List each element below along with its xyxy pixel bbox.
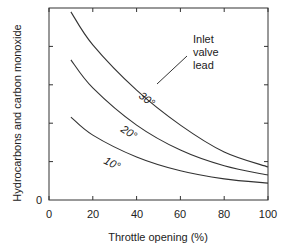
x-tick-100: 100 <box>259 208 277 220</box>
plot-frame <box>49 8 268 200</box>
y-axis-label: Hydrocarbons and carbon monoxide <box>11 24 23 201</box>
annotation-line-1: Inlet <box>193 33 214 45</box>
chart: 0 20 40 60 80 100 0 Throttle opening (%)… <box>0 0 286 249</box>
x-tick-0: 0 <box>46 208 52 220</box>
annotation-line-2: valve <box>193 46 219 58</box>
y-tick-0: 0 <box>36 194 42 206</box>
curves <box>71 12 268 183</box>
x-tick-40: 40 <box>131 208 143 220</box>
x-tick-20: 20 <box>87 208 99 220</box>
x-axis-label: Throttle opening (%) <box>108 231 208 243</box>
curve-30deg <box>71 12 268 167</box>
annotation-line-3: lead <box>193 59 214 71</box>
curve-label-10: 10° <box>102 154 123 173</box>
axis-ticks <box>49 8 268 200</box>
curve-10deg <box>71 117 268 183</box>
annotation-leader-line <box>157 56 187 84</box>
x-tick-80: 80 <box>218 208 230 220</box>
x-tick-labels: 0 20 40 60 80 100 <box>46 208 277 220</box>
x-tick-60: 60 <box>174 208 186 220</box>
